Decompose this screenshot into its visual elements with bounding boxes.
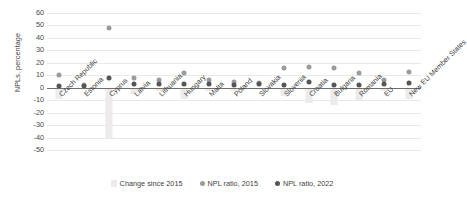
y-axis-tick-label: 0 <box>20 84 44 91</box>
y-axis-tick-label: -10 <box>20 96 44 103</box>
y-axis-tick-label: -30 <box>20 121 44 128</box>
legend-label: NPL ratio, 2022 <box>283 179 333 188</box>
npl-ratio-2022-point <box>157 81 162 86</box>
change-since-2015-bar <box>181 88 188 99</box>
chart-column <box>147 13 172 150</box>
npl-ratio-2015-point <box>57 73 62 78</box>
y-axis-ticks: 6050403020100-10-20-30-40-50 <box>18 0 44 197</box>
npl-ratio-2022-point <box>381 81 386 86</box>
plot-area <box>47 13 421 150</box>
npl-ratio-2015-point <box>331 65 336 70</box>
legend-bar-swatch-icon <box>111 180 117 187</box>
npl-ratio-2015-point <box>356 70 361 75</box>
chart-column <box>271 13 296 150</box>
chart-column <box>296 13 321 150</box>
npl-ratio-2015-point <box>406 69 411 74</box>
change-since-2015-bar <box>106 88 113 138</box>
npl-ratio-2022-point <box>182 81 187 86</box>
npl-ratio-2022-point <box>207 81 212 86</box>
chart-column <box>172 13 197 150</box>
chart-column <box>97 13 122 150</box>
legend-label: NPL ratio, 2015 <box>208 179 258 188</box>
legend-circle-gray-icon <box>200 181 205 186</box>
y-axis-tick-label: 40 <box>20 34 44 41</box>
y-axis-tick-label: 30 <box>20 46 44 53</box>
y-axis-tick-label: 50 <box>20 21 44 28</box>
legend-item[interactable]: NPL ratio, 2015 <box>200 179 258 188</box>
y-axis-tick-label: 10 <box>20 71 44 78</box>
chart-column <box>222 13 247 150</box>
y-axis-tick-label: 60 <box>20 9 44 16</box>
gridline <box>47 150 421 151</box>
zero-axis-line <box>47 88 421 89</box>
change-since-2015-bar <box>405 88 412 99</box>
change-since-2015-bar <box>330 88 337 105</box>
npl-ratio-2022-point <box>132 81 137 86</box>
npl-ratio-2015-point <box>281 65 286 70</box>
chart-column <box>346 13 371 150</box>
chart-column <box>72 13 97 150</box>
npl-ratio-2022-point <box>306 79 311 84</box>
change-since-2015-bar <box>56 88 63 99</box>
y-axis-tick-label: -50 <box>20 146 44 153</box>
chart-column <box>197 13 222 150</box>
change-since-2015-bar <box>355 88 362 100</box>
npl-ratio-2022-point <box>256 81 261 86</box>
legend-item[interactable]: Change since 2015 <box>111 179 183 188</box>
change-since-2015-bar <box>280 88 287 97</box>
chart-column <box>371 13 396 150</box>
change-since-2015-bar <box>305 88 312 103</box>
npl-ratio-2022-point <box>406 80 411 85</box>
legend-circle-dark-icon <box>275 181 280 186</box>
chart-column <box>321 13 346 150</box>
npl-ratio-2015-point <box>132 75 137 80</box>
npl-ratio-2015-point <box>306 64 311 69</box>
chart-column <box>396 13 421 150</box>
y-axis-tick-label: -20 <box>20 109 44 116</box>
y-axis-tick-label: -40 <box>20 134 44 141</box>
npl-ratio-2015-point <box>182 70 187 75</box>
legend-label: Change since 2015 <box>120 179 183 188</box>
legend-item[interactable]: NPL ratio, 2022 <box>275 179 333 188</box>
chart-column <box>47 13 72 150</box>
npl-ratio-2022-point <box>107 75 112 80</box>
y-axis-tick-label: 20 <box>20 59 44 66</box>
npl-ratio-2015-point <box>107 25 112 30</box>
chart-column <box>246 13 271 150</box>
chart-legend: Change since 2015NPL ratio, 2015NPL rati… <box>0 176 444 190</box>
chart-column <box>122 13 147 150</box>
